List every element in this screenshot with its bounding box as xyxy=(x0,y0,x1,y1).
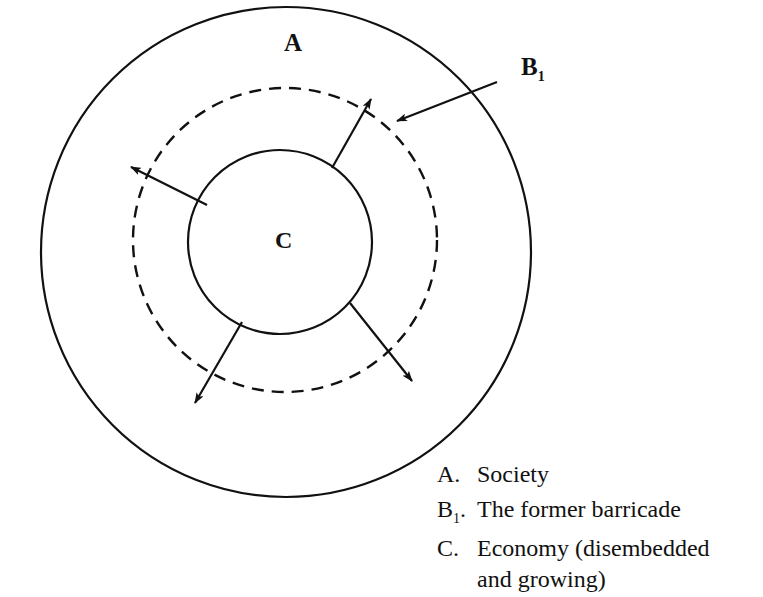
expansion-arrow-lower-right-icon xyxy=(350,303,412,381)
legend-text-b1: The former barricade xyxy=(477,496,757,523)
legend-key-b1-suffix: . xyxy=(460,496,466,522)
legend: A. Society B1. The former barricade C. E… xyxy=(437,461,757,593)
expansion-arrow-upper-right-icon xyxy=(332,99,371,168)
dashed-ring-label-b1: B1 xyxy=(521,54,545,84)
legend-item-c: C. Economy (disembedded xyxy=(437,535,757,562)
legend-key-b1-subscript: 1 xyxy=(453,511,460,526)
callout-arrow-b1-icon xyxy=(397,82,497,121)
dashed-ring-label-base: B xyxy=(521,53,538,80)
core-label-c: C xyxy=(275,228,292,252)
legend-text-c: Economy (disembedded xyxy=(477,535,757,562)
legend-key-a: A. xyxy=(437,461,477,488)
expansion-arrow-lower-left-icon xyxy=(195,322,242,403)
legend-item-b1: B1. The former barricade xyxy=(437,496,757,527)
dashed-ring-label-subscript: 1 xyxy=(538,69,545,84)
legend-text-a: Society xyxy=(477,461,757,488)
outer-ring-label-a: A xyxy=(284,30,302,55)
legend-key-b1-base: B xyxy=(437,496,453,522)
expansion-arrow-upper-left-icon xyxy=(131,167,207,205)
legend-item-a: A. Society xyxy=(437,461,757,488)
legend-key-b1: B1. xyxy=(437,496,477,527)
legend-text-c-continuation: and growing) xyxy=(477,566,757,593)
legend-key-c: C. xyxy=(437,535,477,562)
diagram-figure: A B1 C A. Society B1. The former barrica… xyxy=(0,0,763,597)
